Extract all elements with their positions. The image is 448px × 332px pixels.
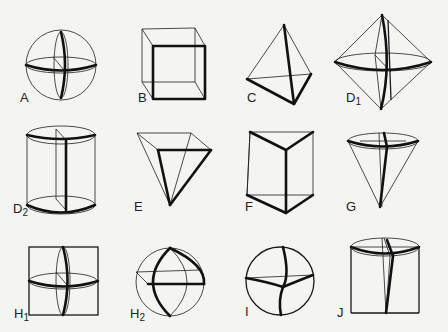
shape-h2-sphere-lens (136, 248, 204, 316)
label-h1: H1 (14, 307, 29, 323)
shape-i-sphere-triangle (246, 247, 314, 315)
shape-f-triangular-prism (247, 132, 313, 213)
label-g: G (346, 200, 356, 216)
label-i: I (245, 305, 249, 321)
label-b: B (138, 91, 147, 107)
shape-b-cube (142, 28, 205, 99)
label-a: A (20, 91, 29, 107)
label-c: C (247, 91, 256, 107)
label-e: E (134, 200, 143, 216)
geometric-shapes-diagram (0, 0, 448, 332)
shape-j-cylinder-cone (351, 238, 419, 313)
label-f: F (245, 200, 253, 216)
label-d2: D2 (13, 202, 28, 218)
shape-h1-square-ellipses (29, 247, 98, 315)
label-h2: H2 (130, 307, 145, 323)
shape-d2-cylinder (27, 126, 95, 214)
shape-e-inverted-pyramid (137, 133, 211, 205)
shape-g-cone (348, 133, 418, 207)
shape-a-sphere (26, 30, 96, 100)
shape-c-tetrahedron (247, 25, 311, 104)
label-d1: D1 (346, 91, 361, 107)
label-j: J (337, 306, 344, 322)
